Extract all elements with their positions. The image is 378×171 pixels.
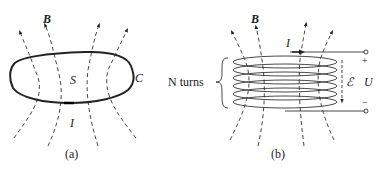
field-label-b: B <box>251 13 259 25</box>
plus-label: + <box>362 56 368 66</box>
terminal-plus <box>364 50 368 54</box>
turns-brace <box>216 58 228 108</box>
minus-label: − <box>362 98 368 108</box>
panel-b-field-lines <box>230 24 334 146</box>
turns-label: N turns <box>168 76 204 88</box>
current-label-a: I <box>70 117 74 129</box>
terminal-minus <box>364 109 368 113</box>
field-label-a: B <box>43 13 51 25</box>
caption-a: (a) <box>65 148 78 160</box>
current-label-b: I <box>286 37 290 49</box>
curve-label: C <box>135 72 143 84</box>
surface-label: S <box>70 74 76 86</box>
caption-b: (b) <box>271 148 285 160</box>
voltage-label: U <box>364 76 373 88</box>
emf-label: ℰ <box>346 76 353 88</box>
solenoid-coil <box>233 56 337 108</box>
